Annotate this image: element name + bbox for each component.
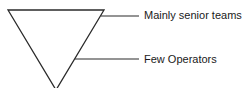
inverted-triangle-shape bbox=[8, 10, 104, 88]
label-mainly-senior-teams: Mainly senior teams bbox=[144, 9, 242, 21]
label-few-operators: Few Operators bbox=[144, 53, 217, 65]
